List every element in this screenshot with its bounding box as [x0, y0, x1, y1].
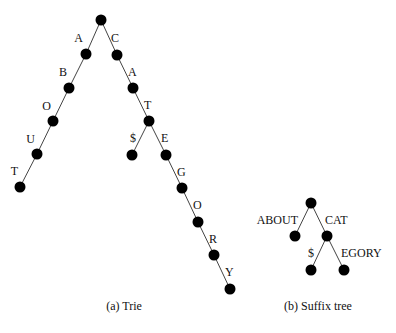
- tree-node: [32, 149, 43, 160]
- edge-label: R: [209, 232, 217, 246]
- edge-label: $: [308, 246, 314, 260]
- edge-label: O: [42, 99, 51, 113]
- tree-node: [290, 231, 301, 242]
- suffix-tree-figure: ABOUTCAT$EGORY (b) Suffix tree: [257, 198, 382, 314]
- edge: [69, 54, 86, 88]
- tree-node: [161, 150, 172, 161]
- tree-node: [96, 15, 107, 26]
- edge-label: $: [130, 131, 136, 145]
- tree-node: [177, 183, 188, 194]
- tree-node: [144, 116, 155, 127]
- tree-node: [209, 250, 220, 261]
- tree-node: [128, 83, 139, 94]
- edge-label: B: [59, 65, 67, 79]
- edge-label: G: [177, 165, 186, 179]
- edge-label: A: [74, 31, 83, 45]
- edge: [86, 20, 101, 54]
- trie-nodes: [15, 15, 236, 295]
- edge-label: CAT: [325, 213, 348, 227]
- tree-node: [322, 231, 333, 242]
- tree-node: [127, 150, 138, 161]
- edge-label: T: [144, 98, 152, 112]
- edge-label: U: [26, 132, 35, 146]
- tree-node: [225, 284, 236, 295]
- edge-label: EGORY: [341, 246, 382, 260]
- edge-label: C: [111, 31, 119, 45]
- trie-caption: (a) Trie: [106, 299, 142, 313]
- trie-figure: ABOUTCAT$EGORY (a) Trie: [11, 15, 236, 314]
- tree-node: [306, 265, 317, 276]
- trie-edge-labels: ABOUTCAT$EGORY: [11, 31, 234, 279]
- tree-node: [339, 265, 350, 276]
- diagram-canvas: ABOUTCAT$EGORY (a) Trie ABOUTCAT$EGORY (…: [0, 0, 396, 333]
- edge: [53, 88, 69, 121]
- edge-label: T: [11, 164, 19, 178]
- edge-label: O: [193, 198, 202, 212]
- suffix-tree-caption: (b) Suffix tree: [284, 299, 352, 313]
- edge-label: A: [128, 65, 137, 79]
- edge: [37, 121, 53, 154]
- edge: [20, 154, 37, 187]
- tree-node: [193, 217, 204, 228]
- tree-node: [306, 198, 317, 209]
- edge-label: Y: [225, 265, 234, 279]
- trie-edges: [20, 20, 230, 289]
- tree-node: [64, 83, 75, 94]
- tree-node: [112, 50, 123, 61]
- edge-label: E: [161, 131, 168, 145]
- tree-node: [15, 182, 26, 193]
- edge-label: ABOUT: [257, 213, 299, 227]
- tree-node: [81, 49, 92, 60]
- tree-node: [48, 116, 59, 127]
